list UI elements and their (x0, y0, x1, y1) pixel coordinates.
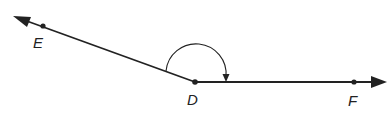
ray-df-arrowhead-icon (371, 76, 387, 88)
ray-de (24, 20, 195, 82)
angle-arc-arrowhead-icon (223, 74, 230, 82)
point-f (351, 79, 356, 84)
label-f: F (348, 92, 358, 109)
angle-diagram: E D F (0, 0, 391, 119)
label-d: D (187, 91, 198, 108)
point-d (192, 79, 198, 85)
angle-arc (166, 44, 226, 77)
ray-de-arrowhead-icon (13, 16, 31, 27)
point-e (40, 23, 45, 28)
label-e: E (33, 34, 44, 51)
